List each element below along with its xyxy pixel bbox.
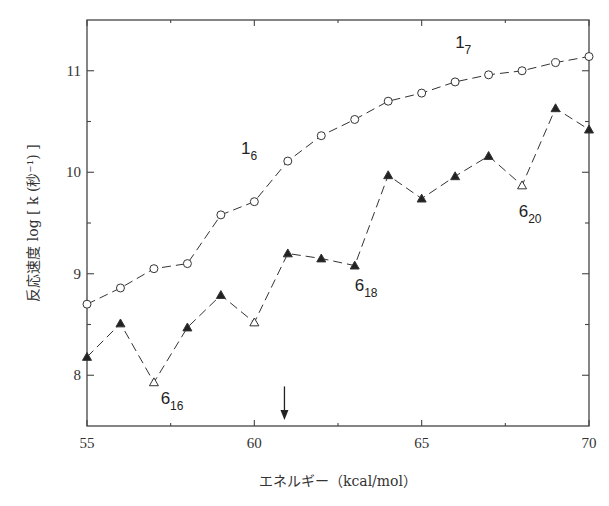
series-1 — [83, 53, 593, 309]
x-tick-label: 60 — [247, 435, 262, 451]
plot-frame — [87, 20, 589, 426]
y-tick-label: 8 — [74, 367, 82, 383]
y-tick-label: 9 — [74, 266, 82, 282]
triangle-marker — [451, 172, 460, 180]
circle-marker — [317, 132, 325, 140]
triangle-marker — [384, 171, 393, 179]
circle-marker — [518, 67, 526, 75]
arrow-head — [280, 410, 288, 420]
x-tick-label: 70 — [582, 435, 597, 451]
plot-border — [87, 20, 589, 426]
circle-marker — [485, 71, 493, 79]
series-line — [87, 108, 589, 382]
data-series — [83, 53, 594, 386]
triangle-marker — [216, 291, 225, 299]
series-annotation: 618 — [355, 276, 378, 300]
circle-marker — [250, 198, 258, 206]
circle-marker — [451, 78, 459, 86]
circle-marker — [351, 115, 359, 123]
triangle-marker — [317, 254, 326, 262]
x-tick-label: 65 — [414, 435, 429, 451]
circle-marker — [284, 157, 292, 165]
triangle-marker — [484, 152, 493, 160]
triangle-marker — [585, 125, 594, 133]
circle-marker — [150, 265, 158, 273]
series-annotation: 616 — [161, 389, 184, 413]
series-annotation: 620 — [519, 202, 542, 226]
triangle-marker — [149, 378, 158, 386]
series-annotation: 17 — [455, 33, 471, 57]
triangle-marker — [518, 181, 527, 189]
circle-marker — [585, 53, 593, 61]
series-2 — [83, 104, 594, 386]
x-tick-label: 55 — [80, 435, 95, 451]
triangle-marker — [551, 104, 560, 112]
triangle-marker — [250, 318, 259, 326]
circle-marker — [116, 284, 124, 292]
y-tick-label: 10 — [66, 164, 81, 180]
x-axis-title: エネルギー（kcal/mol） — [259, 473, 417, 489]
circle-marker — [217, 211, 225, 219]
y-axis-title: 反応速度 log [ k (秒⁻¹) ] — [25, 144, 41, 301]
circle-marker — [384, 97, 392, 105]
series-annotation: 16 — [241, 139, 257, 163]
down-arrow-icon — [280, 386, 288, 419]
series-annotations: 1617616618620 — [161, 33, 542, 412]
axis-ticks — [87, 20, 589, 426]
circle-marker — [552, 59, 560, 67]
triangle-marker — [116, 319, 125, 327]
reaction-rate-chart: 55606570 891011 1617616618620 エネルギー（kcal… — [0, 0, 609, 506]
circle-marker — [83, 300, 91, 308]
y-tick-labels: 891011 — [66, 63, 81, 384]
series-line — [87, 57, 589, 305]
y-tick-label: 11 — [67, 63, 81, 79]
triangle-marker — [417, 194, 426, 202]
circle-marker — [418, 89, 426, 97]
circle-marker — [183, 260, 191, 268]
x-tick-labels: 55606570 — [80, 435, 597, 451]
triangle-marker — [283, 249, 292, 257]
